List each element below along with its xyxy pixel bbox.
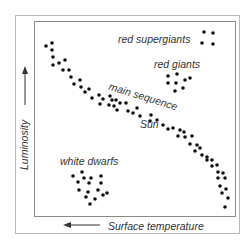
star-dot-main-sequence [72, 82, 76, 86]
star-dot-main-sequence [218, 184, 222, 188]
star-dot-main-sequence [67, 68, 71, 72]
star-dot-main-sequence [115, 108, 119, 112]
star-dot-white-dwarfs [93, 197, 97, 201]
star-dot-white-dwarfs [99, 174, 103, 178]
star-dot-main-sequence [114, 98, 118, 102]
star-dot-red-giants [166, 74, 170, 78]
star-dot-white-dwarfs [77, 188, 81, 192]
star-dot-red-giants [175, 72, 179, 76]
star-dot-main-sequence [63, 58, 67, 62]
star-dot-main-sequence [149, 113, 153, 117]
star-dot-main-sequence [110, 98, 114, 102]
arrow-up-icon [22, 66, 28, 105]
star-dot-main-sequence [61, 68, 65, 72]
star-dot-main-sequence [51, 55, 55, 59]
star-dot-main-sequence [183, 135, 187, 139]
star-dot-main-sequence [90, 96, 94, 100]
star-dot-white-dwarfs [105, 191, 109, 195]
star-dot-main-sequence [224, 187, 228, 191]
star-dot-red-giants [173, 89, 177, 93]
star-dot-red-supergiants [202, 30, 206, 34]
star-dot-main-sequence [124, 101, 128, 105]
star-dot-white-dwarfs [76, 180, 80, 184]
star-dot-main-sequence [98, 102, 102, 106]
star-dot-main-sequence [50, 48, 54, 52]
star-dot-white-dwarfs [101, 193, 105, 197]
arrow-left-icon [63, 222, 100, 228]
label-red-supergiants: red supergiants [118, 33, 190, 45]
star-dot-main-sequence [50, 41, 54, 45]
star-dot-main-sequence [216, 176, 220, 180]
star-dot-main-sequence [51, 63, 55, 67]
label-red-giants: red giants [154, 58, 200, 70]
star-dot-main-sequence [190, 134, 194, 138]
star-dot-main-sequence [135, 106, 139, 110]
star-dot-main-sequence [171, 126, 175, 130]
star-dot-main-sequence [118, 101, 122, 105]
star-dot-white-dwarfs [84, 195, 88, 199]
star-dot-main-sequence [107, 103, 111, 107]
star-dot-main-sequence [161, 123, 165, 127]
label-white-dwarfs: white dwarfs [60, 155, 118, 167]
star-dot-main-sequence [126, 109, 130, 113]
star-dot-white-dwarfs [96, 188, 100, 192]
star-dot-main-sequence [223, 176, 227, 180]
star-dot-white-dwarfs [86, 190, 90, 194]
star-dot-main-sequence [176, 134, 180, 138]
x-axis-label: Surface temperature [108, 220, 204, 232]
star-dot-main-sequence [178, 128, 182, 132]
star-dot-white-dwarfs [80, 170, 84, 174]
star-dot-red-giants [174, 81, 178, 85]
star-dot-red-supergiants [211, 31, 215, 35]
star-dot-main-sequence [79, 85, 83, 89]
star-dot-main-sequence [112, 104, 116, 108]
star-dot-main-sequence [221, 171, 225, 175]
star-dot-white-dwarfs [87, 181, 91, 185]
star-dot-main-sequence [210, 158, 214, 162]
label-sun: Sun [140, 118, 159, 130]
star-dot-main-sequence [193, 149, 197, 153]
star-dot-white-dwarfs [88, 202, 92, 206]
star-dot-main-sequence [57, 61, 61, 65]
star-dot-red-giants [181, 86, 185, 90]
star-dot-white-dwarfs [71, 174, 75, 178]
star-dot-main-sequence [97, 93, 101, 97]
star-dot-main-sequence [69, 75, 73, 79]
star-dot-main-sequence [205, 158, 209, 162]
star-dot-red-supergiants [211, 42, 215, 46]
star-dot-main-sequence [210, 164, 214, 168]
star-dot-main-sequence [216, 170, 220, 174]
star-dot-main-sequence [226, 196, 230, 200]
star-dot-red-giants [188, 76, 192, 80]
star-dot-main-sequence [195, 143, 199, 147]
star-dot-white-dwarfs [82, 176, 86, 180]
star-dot-main-sequence [200, 153, 204, 157]
star-dot-main-sequence [101, 97, 105, 101]
star-dot-main-sequence [188, 142, 192, 146]
star-dot-red-giants [166, 81, 170, 85]
star-dot-main-sequence [220, 191, 224, 195]
star-dot-main-sequence [166, 127, 170, 131]
star-dot-main-sequence [108, 94, 112, 98]
star-dot-main-sequence [131, 111, 135, 115]
star-dot-main-sequence [83, 90, 87, 94]
star-dot-red-supergiants [200, 41, 204, 45]
star-dot-main-sequence [198, 146, 202, 150]
star-dot-main-sequence [44, 44, 48, 48]
star-dot-main-sequence [87, 87, 91, 91]
star-dot-white-dwarfs [89, 176, 93, 180]
star-dot-white-dwarfs [99, 181, 103, 185]
y-axis-label: Luminosity [18, 120, 30, 170]
star-dot-main-sequence [78, 78, 82, 82]
star-dot-main-sequence [215, 163, 219, 167]
star-dot-main-sequence [182, 130, 186, 134]
star-dot-red-giants [183, 78, 187, 82]
star-dot-main-sequence [223, 205, 227, 209]
